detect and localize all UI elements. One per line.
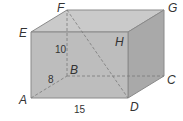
vertex-label-G: G (168, 1, 177, 15)
dimension-height: 10 (55, 44, 67, 55)
dimension-length: 15 (74, 104, 86, 115)
vertex-label-E: E (19, 26, 28, 40)
front-face (31, 32, 128, 98)
vertex-label-F: F (57, 1, 65, 15)
vertex-label-C: C (167, 73, 176, 87)
prism-diagram: F G E H B C A D 10 8 15 (0, 0, 183, 121)
vertex-label-A: A (18, 93, 27, 107)
vertex-label-B: B (70, 63, 78, 77)
vertex-label-D: D (130, 100, 139, 114)
dimension-depth: 8 (48, 74, 54, 85)
vertex-label-H: H (115, 35, 124, 49)
